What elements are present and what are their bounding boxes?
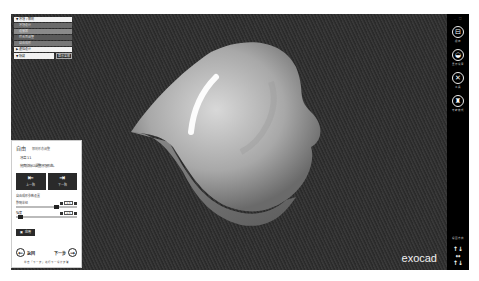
tree-item-selected[interactable]: ▶ 虚拟设计: [14, 47, 72, 52]
apply-button[interactable]: ▣ 应用: [16, 229, 35, 236]
hint-text: 单击「下一步」进行下一设计步骤: [12, 260, 81, 264]
save-button[interactable]: ⊟ 保存: [447, 26, 469, 43]
view-left-right-icon[interactable]: ↔: [455, 252, 460, 259]
tree-header[interactable]: ▼ 牙冠 / 解剖: [14, 17, 72, 22]
next-tooth-label: 下一颗: [48, 183, 78, 188]
tools-button[interactable]: ✕ 工具: [447, 72, 469, 89]
expert-label: 专家模式: [452, 108, 464, 112]
apply-icon: ▣: [20, 230, 23, 234]
view-up-down-icon[interactable]: ↑↓: [453, 245, 463, 252]
previous-tooth-button[interactable]: ⇤ 上一颗: [16, 173, 46, 190]
tree-item[interactable]: 牙冠设计: [14, 23, 72, 28]
expert-icon: ♜: [452, 95, 464, 107]
tree-item[interactable]: 自由成形: [14, 41, 72, 46]
view-front-back-icon[interactable]: ↑↓: [453, 259, 463, 266]
tools-icon: ✕: [452, 72, 464, 84]
wizard-subtitle: 解剖形态调整: [32, 147, 50, 151]
strength-slider[interactable]: [16, 216, 77, 218]
settings-section-label: 自由成形参数设置: [16, 194, 77, 198]
apply-label: 应用: [25, 230, 31, 234]
skip-back-icon: ⇤: [16, 173, 46, 183]
tools-label: 工具: [455, 85, 461, 89]
3d-tooth-model[interactable]: [121, 22, 341, 252]
next-button[interactable]: 下一步 →: [54, 248, 77, 257]
decrement-icon[interactable]: [60, 202, 63, 205]
slider-thumb[interactable]: [54, 205, 59, 209]
exocad-logo: exocad: [402, 252, 437, 264]
wizard-panel: 自由 解剖形态调整 牙齿 11 拖曳鼠标以调整牙冠形态。 ⇤ 上一颗 ⇥ 下一颗…: [11, 140, 82, 268]
tree-item[interactable]: 咬合面调整: [14, 35, 72, 40]
save-icon: ⊟: [452, 26, 464, 38]
view-direction-label: 视图方向: [447, 236, 469, 240]
slider-thumb[interactable]: [18, 215, 23, 219]
slider-label: 影响半径: [16, 201, 28, 205]
maximize-button[interactable]: □: [459, 16, 462, 20]
current-tooth: 牙齿 11: [20, 155, 77, 160]
strength-slider-row: 强度 0.5: [16, 211, 77, 218]
next-label: 下一步: [54, 250, 66, 256]
display-settings-button[interactable]: ◒ 显示设置: [447, 49, 469, 66]
skip-forward-icon: ⇥: [48, 173, 78, 183]
arrow-left-icon: ←: [16, 248, 25, 257]
next-tooth-button[interactable]: ⇥ 下一颗: [48, 173, 78, 190]
back-label: 返回: [27, 250, 35, 256]
exocad-window: ▼ 牙冠 / 解剖 牙冠设计 连接器 咬合面调整 自由成形 ▶ 虚拟设计 ▼ 隐…: [11, 14, 469, 270]
tree-header-label: ▼ 牙冠 / 解剖: [16, 17, 34, 21]
radius-input[interactable]: 1.5: [64, 201, 73, 205]
display-icon: ◒: [452, 49, 464, 61]
radius-slider-row: 影响半径 1.5: [16, 201, 77, 208]
display-label: 显示设置: [452, 62, 464, 66]
right-toolbar: _ □ ⊟ 保存 ◒ 显示设置 ✕ 工具 ♜ 专家模式 视图方向 ↑↓ ↔ ↑↓: [447, 14, 469, 270]
increment-icon[interactable]: [74, 212, 77, 215]
radius-slider[interactable]: [16, 206, 77, 208]
save-label: 保存: [455, 39, 461, 43]
arrow-right-icon: →: [68, 248, 77, 257]
decrement-icon[interactable]: [60, 212, 63, 215]
wizard-title: 自由: [16, 144, 26, 151]
object-tree-panel: ▼ 牙冠 / 解剖 牙冠设计 连接器 咬合面调整 自由成形 ▶ 虚拟设计 ▼ 隐…: [14, 17, 72, 59]
visibility-dropdown[interactable]: ▼ 隐藏: [14, 53, 54, 59]
minimize-button[interactable]: _: [454, 16, 456, 20]
instruction-text: 拖曳鼠标以调整牙冠形态。: [20, 163, 77, 168]
show-all-button[interactable]: 显示全部: [56, 53, 72, 59]
increment-icon[interactable]: [74, 202, 77, 205]
previous-tooth-label: 上一颗: [16, 183, 46, 188]
tree-item[interactable]: 连接器: [14, 29, 72, 34]
strength-input[interactable]: 0.5: [64, 211, 73, 215]
expert-mode-button[interactable]: ♜ 专家模式: [447, 95, 469, 112]
view-direction-controls[interactable]: ↑↓ ↔ ↑↓: [447, 245, 469, 266]
back-button[interactable]: ← 返回: [16, 248, 35, 257]
